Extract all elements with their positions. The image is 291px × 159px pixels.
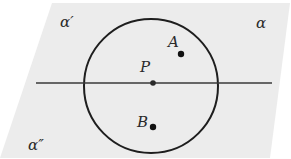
geometry-diagram: α′ α α″ P A B [0, 0, 291, 159]
label-point-b: B [137, 115, 148, 130]
point-b-dot [150, 124, 156, 130]
label-alpha: α [256, 16, 266, 31]
label-alpha-double-prime: α″ [28, 138, 44, 153]
point-a-dot [178, 51, 184, 57]
plane-alpha [0, 3, 290, 158]
label-point-a: A [168, 35, 179, 50]
label-point-p: P [140, 60, 150, 75]
label-alpha-prime: α′ [60, 15, 74, 30]
point-p-dot [150, 80, 156, 86]
